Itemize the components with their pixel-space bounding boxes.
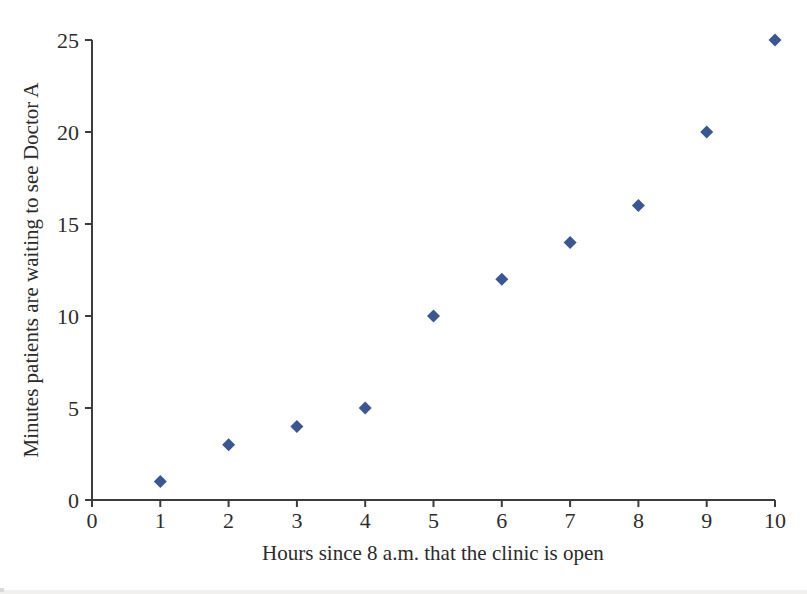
y-axis-group: 0510152025 xyxy=(57,28,92,513)
data-point-marker xyxy=(427,310,440,323)
y-tick-label: 25 xyxy=(57,28,79,53)
y-axis-title: Minutes patients are waiting to see Doct… xyxy=(19,82,43,458)
y-tick-label: 20 xyxy=(57,120,79,145)
x-tick-label: 4 xyxy=(360,508,371,533)
x-tick-label: 7 xyxy=(565,508,576,533)
y-tick-label: 0 xyxy=(68,488,79,513)
data-point-marker xyxy=(359,402,372,415)
x-tick-label: 8 xyxy=(633,508,644,533)
x-axis-group: 012345678910 xyxy=(87,500,787,533)
x-tick-label: 2 xyxy=(223,508,234,533)
data-point-marker xyxy=(290,420,303,433)
data-point-marker xyxy=(495,273,508,286)
x-axis-title: Hours since 8 a.m. that the clinic is op… xyxy=(262,541,604,565)
data-point-marker xyxy=(769,34,782,47)
scan-artifact-speck xyxy=(0,588,4,592)
x-tick-label: 9 xyxy=(701,508,712,533)
data-point-marker xyxy=(154,475,167,488)
data-point-marker xyxy=(632,199,645,212)
scatter-chart-figure: 0510152025 012345678910 Hours since 8 a.… xyxy=(0,0,807,594)
y-tick-label: 10 xyxy=(57,304,79,329)
x-tick-label: 1 xyxy=(155,508,166,533)
data-point-marker xyxy=(700,126,713,139)
scan-artifact-strip xyxy=(0,590,807,594)
x-tick-label: 10 xyxy=(764,508,786,533)
scatter-plot-canvas: 0510152025 012345678910 Hours since 8 a.… xyxy=(0,0,807,594)
y-tick-label: 15 xyxy=(57,212,79,237)
x-tick-label: 0 xyxy=(87,508,98,533)
x-tick-label: 3 xyxy=(291,508,302,533)
x-tick-label: 6 xyxy=(496,508,507,533)
data-point-marker xyxy=(564,236,577,249)
x-tick-label: 5 xyxy=(428,508,439,533)
data-points-group xyxy=(154,34,782,489)
data-point-marker xyxy=(222,438,235,451)
y-tick-label: 5 xyxy=(68,396,79,421)
